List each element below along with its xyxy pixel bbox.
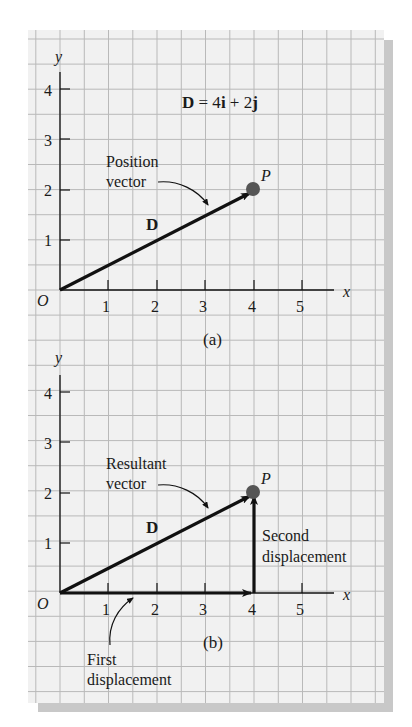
x-tick-label: 5: [296, 298, 304, 315]
point-p: [246, 485, 260, 499]
point-label: P: [260, 167, 271, 184]
annotation-line2: vector: [106, 173, 147, 190]
y-axis-label: y: [53, 48, 63, 66]
y-tick-label: 2: [44, 182, 52, 199]
vector-label: D: [146, 518, 158, 537]
x-tick-label: 3: [199, 298, 207, 315]
x-tick-label: 1: [102, 298, 110, 315]
x-tick-label: 2: [151, 298, 159, 315]
first-displacement-line1: First: [87, 651, 117, 668]
y-tick-label: 4: [44, 385, 52, 402]
y-tick-label: 1: [44, 535, 52, 552]
x-tick-label: 1: [102, 601, 110, 618]
x-axis-label: x: [342, 586, 350, 603]
paper-shadow-right: [384, 40, 393, 712]
second-displacement-line2: displacement: [262, 548, 347, 566]
origin-label: O: [37, 292, 49, 309]
first-displacement-line2: displacement: [87, 671, 172, 689]
point-label: P: [260, 470, 271, 487]
x-tick-label: 4: [248, 298, 256, 315]
annotation-line1: Resultant: [106, 455, 167, 472]
x-tick-label: 2: [151, 601, 159, 618]
vector-label: D: [146, 215, 158, 234]
x-axis-label: x: [342, 283, 350, 300]
origin-label: O: [37, 595, 49, 612]
y-tick-label: 3: [44, 132, 52, 149]
caption-a: (a): [203, 330, 222, 349]
x-tick-label: 5: [296, 601, 304, 618]
annotation-line2: vector: [106, 475, 147, 492]
caption-b: (b): [203, 633, 223, 652]
y-tick-label: 3: [44, 435, 52, 452]
y-tick-label: 2: [44, 485, 52, 502]
x-tick-label: 4: [248, 601, 256, 618]
paper-shadow-bottom: [38, 703, 393, 712]
y-axis-label: y: [53, 349, 63, 367]
y-tick-label: 1: [44, 232, 52, 249]
x-tick-label: 3: [199, 601, 207, 618]
y-tick-label: 4: [44, 82, 52, 99]
point-p: [246, 182, 260, 196]
second-displacement-line1: Second: [262, 527, 309, 544]
vector-figure: y x O 1 2 3 4 1 2 3 4 5 D = 4i + 2j P D …: [0, 0, 412, 727]
annotation-line1: Position: [106, 153, 158, 170]
equation: D = 4i + 2j: [182, 93, 258, 112]
